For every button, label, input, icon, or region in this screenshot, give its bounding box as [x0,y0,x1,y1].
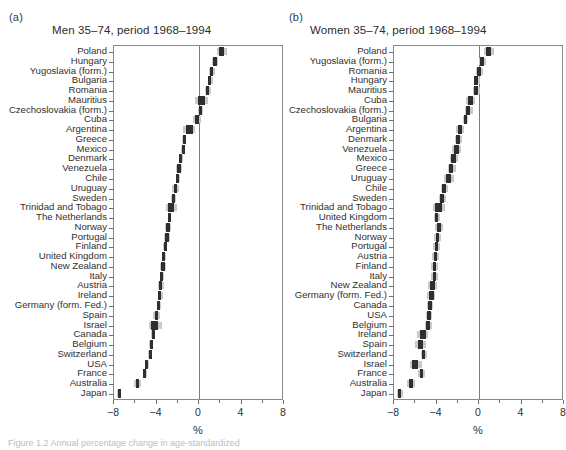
y-axis-tick [389,326,394,327]
y-axis-tick [109,345,114,346]
y-axis-tick [109,52,114,53]
y-axis-tick [109,62,114,63]
data-point-marker [458,125,463,134]
plot-area-a [113,45,283,400]
data-point-marker [464,115,467,124]
y-axis-tick [389,247,394,248]
y-axis-tick [389,120,394,121]
y-axis-tick [109,384,114,385]
data-point-marker [143,369,146,378]
x-axis-tick [563,400,564,404]
data-point-marker [474,86,478,95]
data-point-marker [177,164,181,173]
y-axis-tick [389,257,394,258]
y-axis-tick [389,374,394,375]
data-point-marker [172,194,175,203]
y-axis-tick [389,355,394,356]
data-point-marker [474,76,478,85]
x-axis-tick-label: 8 [560,406,566,418]
y-axis-tick [109,208,114,209]
panel-women: (b) Women 35–74, period 1968–1994 Poland… [280,0,560,450]
y-axis-tick [389,111,394,112]
y-axis-tick [109,218,114,219]
data-point-marker [118,389,121,398]
x-axis-tick-label: 0 [195,406,201,418]
x-axis-tick-label: −4 [430,406,442,418]
data-point-marker [208,76,211,85]
x-axis-minor-tick [177,400,178,403]
data-point-marker [398,389,401,398]
y-axis-tick [389,150,394,151]
x-axis-tick-label: 0 [475,406,481,418]
panel-men: (a) Men 35–74, period 1968–1994 PolandHu… [0,0,280,450]
x-axis-minor-tick [262,400,263,403]
y-axis-tick [389,218,394,219]
y-axis-tick [109,199,114,200]
data-point-marker [158,291,161,300]
y-axis-tick [109,316,114,317]
y-axis-tick [389,179,394,180]
data-point-marker [427,311,431,320]
data-point-marker [435,213,438,222]
data-point-marker [136,379,140,388]
y-axis-tick [389,306,394,307]
y-axis-tick [389,286,394,287]
data-point-marker [436,233,440,242]
data-point-marker [437,223,441,232]
y-axis-tick [389,91,394,92]
x-axis-minor-tick [134,400,135,403]
y-axis-tick [109,335,114,336]
data-point-marker [430,281,435,290]
data-point-marker [182,145,185,154]
y-axis-tick [109,91,114,92]
y-axis-tick [389,52,394,53]
y-axis-tick [389,208,394,209]
data-point-marker [198,96,205,105]
y-axis-tick [109,130,114,131]
data-point-marker [176,174,179,183]
data-point-marker [206,86,209,95]
x-axis-tick-label: −4 [150,406,162,418]
panel-tag-a: (a) [9,11,23,23]
y-axis-tick [109,326,114,327]
x-axis-tick-label: −8 [387,406,399,418]
data-point-marker [195,115,200,124]
y-axis-tick [109,374,114,375]
y-axis-tick [109,159,114,160]
data-point-marker [159,281,163,290]
y-axis-tick [389,81,394,82]
data-point-marker [199,106,202,115]
x-axis-tick [241,400,242,404]
y-axis-tick [389,189,394,190]
x-axis-tick-label: −8 [107,406,119,418]
y-axis-tick [109,72,114,73]
data-point-marker [174,184,178,193]
y-axis-tick [389,365,394,366]
data-point-marker [145,360,148,369]
data-point-marker [426,321,430,330]
y-axis-tick [109,140,114,141]
y-axis-tick [389,199,394,200]
data-point-marker [179,154,182,163]
data-rows-a [114,46,282,399]
data-point-marker [162,252,165,261]
data-point-marker [409,379,414,388]
x-axis-tick-label: 4 [518,406,524,418]
y-axis-tick [109,120,114,121]
y-axis-tick [109,247,114,248]
data-point-marker [434,252,438,261]
y-axis-tick [109,150,114,151]
data-point-marker [428,301,432,310]
x-axis-minor-tick [542,400,543,403]
x-axis-tick [521,400,522,404]
x-axis-minor-tick [499,400,500,403]
y-axis-tick [389,140,394,141]
y-axis-tick [109,277,114,278]
data-point-marker [451,154,455,163]
data-point-marker [480,57,484,66]
data-point-marker [219,47,224,56]
data-point-marker [418,340,424,349]
y-axis-tick [389,228,394,229]
data-point-marker [433,262,437,271]
y-axis-tick [389,394,394,395]
